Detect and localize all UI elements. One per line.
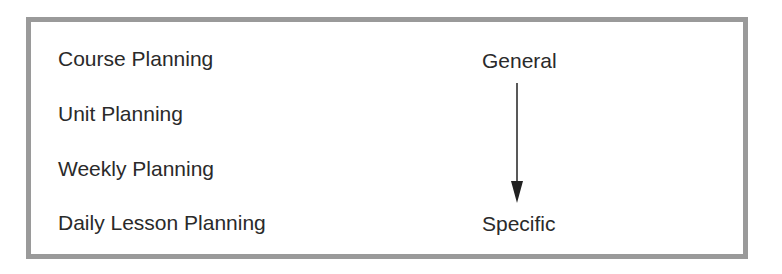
down-arrow-icon <box>0 0 782 274</box>
